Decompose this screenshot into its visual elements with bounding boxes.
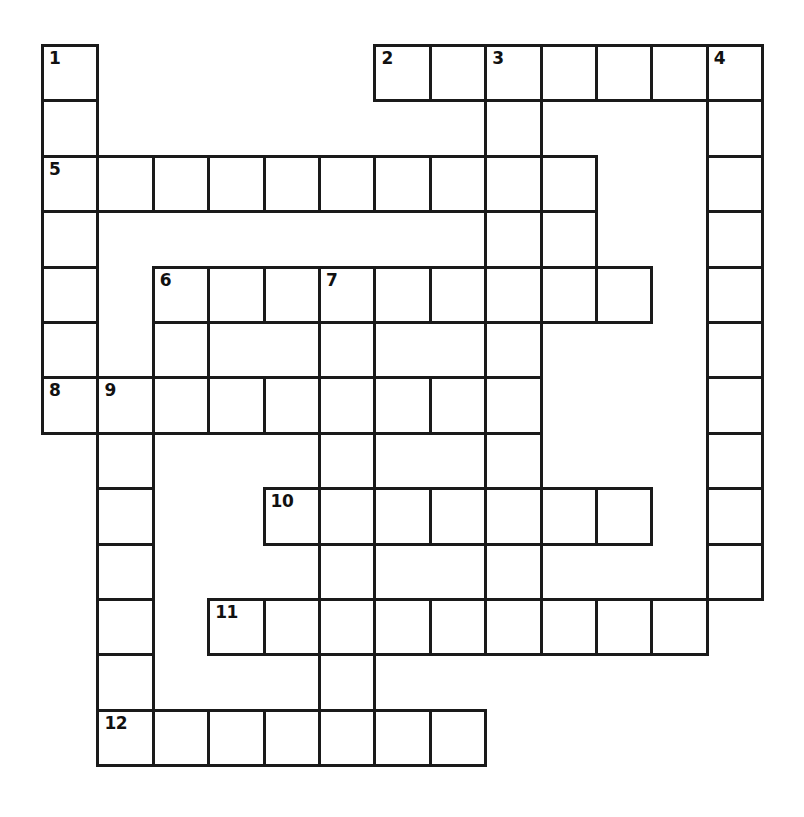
crossword-cell[interactable] — [318, 487, 376, 545]
crossword-cell[interactable] — [429, 44, 487, 102]
crossword-cell[interactable] — [706, 543, 764, 601]
cell-number-3: 3 — [492, 49, 503, 68]
crossword-cell[interactable] — [318, 155, 376, 213]
crossword-cell[interactable] — [41, 210, 99, 268]
crossword-cell[interactable] — [484, 598, 542, 656]
crossword-cell[interactable] — [540, 598, 598, 656]
crossword-cell[interactable] — [706, 487, 764, 545]
crossword-cell[interactable] — [595, 266, 653, 324]
crossword-cell-start-5[interactable]: 5 — [41, 155, 99, 213]
crossword-cell[interactable] — [41, 99, 99, 157]
crossword-cell[interactable] — [595, 598, 653, 656]
crossword-cell[interactable] — [318, 376, 376, 434]
crossword-cell[interactable] — [484, 210, 542, 268]
crossword-cell[interactable] — [429, 376, 487, 434]
cell-number-10: 10 — [271, 492, 294, 511]
crossword-cell[interactable] — [706, 432, 764, 490]
crossword-cell[interactable] — [96, 487, 154, 545]
crossword-cell[interactable] — [484, 266, 542, 324]
crossword-cell[interactable] — [152, 709, 210, 767]
crossword-cell[interactable] — [152, 321, 210, 379]
cell-number-5: 5 — [49, 160, 60, 179]
crossword-cell[interactable] — [540, 266, 598, 324]
crossword-cell-start-12[interactable]: 12 — [96, 709, 154, 767]
cell-number-12: 12 — [104, 714, 127, 733]
crossword-cell[interactable] — [484, 376, 542, 434]
crossword-cell[interactable] — [318, 543, 376, 601]
crossword-cell[interactable] — [595, 44, 653, 102]
crossword-cell[interactable] — [207, 155, 265, 213]
crossword-cell[interactable] — [429, 709, 487, 767]
crossword-grid[interactable]: 123456789101112 — [0, 0, 804, 817]
crossword-cell-start-11[interactable]: 11 — [207, 598, 265, 656]
crossword-cell[interactable] — [429, 266, 487, 324]
crossword-cell[interactable] — [263, 709, 321, 767]
crossword-cell[interactable] — [706, 266, 764, 324]
crossword-cell-start-9[interactable]: 9 — [96, 376, 154, 434]
crossword-cell[interactable] — [263, 155, 321, 213]
crossword-cell-start-10[interactable]: 10 — [263, 487, 321, 545]
crossword-cell[interactable] — [484, 487, 542, 545]
crossword-cell[interactable] — [429, 155, 487, 213]
crossword-cell[interactable] — [540, 155, 598, 213]
crossword-cell[interactable] — [373, 155, 431, 213]
crossword-cell[interactable] — [152, 155, 210, 213]
cell-number-11: 11 — [215, 603, 238, 622]
crossword-cell[interactable] — [484, 432, 542, 490]
crossword-cell[interactable] — [373, 598, 431, 656]
crossword-cell[interactable] — [207, 709, 265, 767]
crossword-cell[interactable] — [41, 266, 99, 324]
crossword-cell[interactable] — [706, 376, 764, 434]
crossword-cell[interactable] — [96, 155, 154, 213]
crossword-cell[interactable] — [96, 598, 154, 656]
crossword-cell[interactable] — [429, 598, 487, 656]
crossword-cell[interactable] — [96, 653, 154, 711]
crossword-cell[interactable] — [484, 543, 542, 601]
crossword-cell[interactable] — [540, 44, 598, 102]
crossword-cell[interactable] — [318, 598, 376, 656]
cell-number-9: 9 — [104, 381, 115, 400]
crossword-cell[interactable] — [263, 376, 321, 434]
crossword-cell[interactable] — [152, 376, 210, 434]
crossword-cell[interactable] — [263, 266, 321, 324]
crossword-cell[interactable] — [41, 321, 99, 379]
crossword-cell-start-2[interactable]: 2 — [373, 44, 431, 102]
crossword-cell[interactable] — [318, 709, 376, 767]
crossword-cell[interactable] — [540, 210, 598, 268]
crossword-cell-start-1[interactable]: 1 — [41, 44, 99, 102]
crossword-cell[interactable] — [373, 266, 431, 324]
cell-number-6: 6 — [160, 271, 171, 290]
crossword-cell[interactable] — [207, 376, 265, 434]
crossword-cell-start-6[interactable]: 6 — [152, 266, 210, 324]
crossword-cell[interactable] — [484, 99, 542, 157]
crossword-cell-start-4[interactable]: 4 — [706, 44, 764, 102]
crossword-cell[interactable] — [706, 155, 764, 213]
crossword-cell[interactable] — [706, 321, 764, 379]
crossword-cell[interactable] — [96, 432, 154, 490]
crossword-cell[interactable] — [706, 99, 764, 157]
crossword-cell[interactable] — [207, 266, 265, 324]
crossword-cell[interactable] — [484, 321, 542, 379]
crossword-cell[interactable] — [318, 321, 376, 379]
crossword-cell[interactable] — [429, 487, 487, 545]
crossword-cell[interactable] — [595, 487, 653, 545]
crossword-cell[interactable] — [263, 598, 321, 656]
crossword-cell[interactable] — [650, 598, 708, 656]
crossword-cell[interactable] — [540, 487, 598, 545]
crossword-cell-start-7[interactable]: 7 — [318, 266, 376, 324]
crossword-cell[interactable] — [650, 44, 708, 102]
crossword-cell[interactable] — [373, 487, 431, 545]
cell-number-2: 2 — [381, 49, 392, 68]
crossword-cell[interactable] — [373, 709, 431, 767]
cell-number-4: 4 — [714, 49, 725, 68]
crossword-cell[interactable] — [484, 155, 542, 213]
crossword-cell[interactable] — [318, 432, 376, 490]
cell-number-7: 7 — [326, 271, 337, 290]
crossword-cell-start-3[interactable]: 3 — [484, 44, 542, 102]
crossword-puzzle: 123456789101112 — [0, 0, 804, 817]
crossword-cell-start-8[interactable]: 8 — [41, 376, 99, 434]
crossword-cell[interactable] — [706, 210, 764, 268]
crossword-cell[interactable] — [96, 543, 154, 601]
crossword-cell[interactable] — [318, 653, 376, 711]
crossword-cell[interactable] — [373, 376, 431, 434]
